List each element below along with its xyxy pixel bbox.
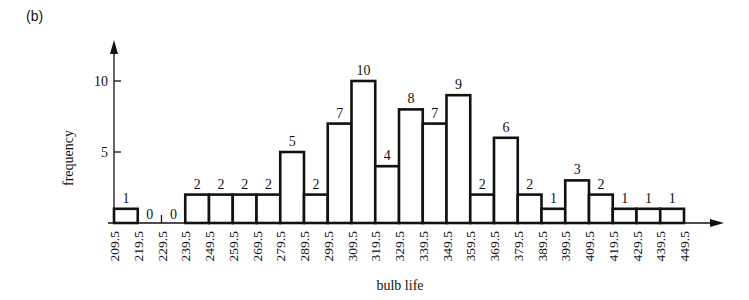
histogram-bar — [565, 180, 589, 223]
bar-value-label: 2 — [479, 177, 486, 192]
bar-value-label: 9 — [455, 77, 462, 92]
x-tick-label: 419.5 — [606, 231, 621, 262]
bar-value-label: 2 — [194, 177, 201, 192]
bar-value-label: 2 — [312, 177, 319, 192]
bar-value-label: 2 — [526, 177, 533, 192]
x-tick-label: 299.5 — [321, 231, 336, 262]
bar-value-label: 0 — [170, 207, 177, 222]
histogram-bar — [352, 81, 376, 223]
bar-value-label: 1 — [621, 191, 628, 206]
histogram-bar — [542, 209, 566, 223]
histogram-bar — [589, 195, 613, 223]
bar-value-label: 2 — [241, 177, 248, 192]
histogram-bar — [494, 138, 518, 223]
histogram-bar — [114, 209, 138, 223]
x-tick-label: 209.5 — [107, 231, 122, 262]
bar-value-label: 0 — [146, 207, 153, 222]
histogram-bar — [257, 195, 281, 223]
bar-value-label: 1 — [122, 191, 129, 206]
x-axis-arrow-icon — [710, 219, 724, 227]
bar-value-label: 6 — [502, 120, 509, 135]
x-tick-label: 339.5 — [416, 231, 431, 262]
x-tick-label: 409.5 — [582, 231, 597, 262]
x-tick-label: 349.5 — [440, 231, 455, 262]
histogram-bar — [185, 195, 209, 223]
x-tick-label: 219.5 — [131, 231, 146, 262]
bars — [114, 81, 684, 223]
bar-value-label: 5 — [289, 134, 296, 149]
bar-value-label: 8 — [407, 91, 414, 106]
bar-value-label: 2 — [217, 177, 224, 192]
histogram-bar — [613, 209, 637, 223]
histogram-bar — [447, 95, 471, 223]
histogram-bar — [518, 195, 542, 223]
histogram-bar — [280, 152, 304, 223]
x-tick-label: 389.5 — [535, 231, 550, 262]
x-tick-label: 399.5 — [558, 231, 573, 262]
x-tick-label: 449.5 — [677, 231, 692, 262]
x-tick-label: 269.5 — [250, 231, 265, 262]
x-tick-label: 289.5 — [297, 231, 312, 262]
x-tick-label: 359.5 — [463, 231, 478, 262]
x-tick-label: 379.5 — [511, 231, 526, 262]
x-tick-label: 239.5 — [178, 231, 193, 262]
histogram-bar — [470, 195, 494, 223]
histogram-bar — [399, 109, 423, 223]
histogram-bar — [328, 124, 352, 223]
histogram-bar — [660, 209, 684, 223]
bar-value-label: 7 — [336, 106, 343, 121]
bar-value-label: 2 — [597, 177, 604, 192]
bar-value-label: 7 — [431, 106, 438, 121]
bar-value-label: 1 — [645, 191, 652, 206]
histogram-bar — [375, 166, 399, 223]
x-tick-label: 249.5 — [202, 231, 217, 262]
histogram-bar — [304, 195, 328, 223]
x-tick-label: 229.5 — [155, 231, 170, 262]
histogram-chart: 1002222527104879262132111 209.5219.5229.… — [0, 0, 749, 300]
x-tick-label: 429.5 — [630, 231, 645, 262]
y-tick-label: 10 — [94, 74, 108, 89]
bar-value-label: 1 — [669, 191, 676, 206]
x-tick-label: 319.5 — [368, 231, 383, 262]
y-axis-arrow-icon — [110, 40, 118, 54]
x-tick-label: 279.5 — [273, 231, 288, 262]
x-axis-title: bulb life — [376, 278, 423, 293]
y-axis-title: frequency — [61, 130, 76, 186]
histogram-bar — [423, 124, 447, 223]
y-axis-labels: 510frequency — [61, 74, 108, 186]
x-tick-label: 309.5 — [345, 231, 360, 262]
histogram-bar — [637, 209, 661, 223]
x-tick-labels: 209.5219.5229.5239.5249.5259.5269.5279.5… — [107, 231, 692, 293]
bar-value-label: 10 — [356, 63, 370, 78]
x-tick-label: 329.5 — [392, 231, 407, 262]
y-tick-label: 5 — [101, 145, 108, 160]
bar-value-label: 1 — [550, 191, 557, 206]
x-tick-label: 259.5 — [226, 231, 241, 262]
histogram-bar — [209, 195, 233, 223]
bar-value-label: 2 — [265, 177, 272, 192]
histogram-bar — [233, 195, 257, 223]
x-tick-label: 369.5 — [487, 231, 502, 262]
bar-value-label: 4 — [384, 148, 391, 163]
x-tick-label: 439.5 — [653, 231, 668, 262]
bar-value-label: 3 — [574, 162, 581, 177]
